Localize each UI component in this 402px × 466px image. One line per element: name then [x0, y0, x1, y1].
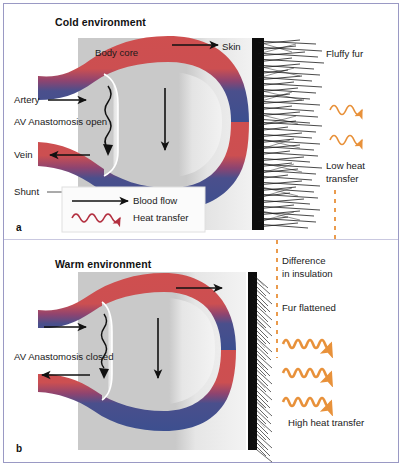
label-difference-line1: Difference [282, 255, 326, 267]
panel-a-title: Cold environment [55, 16, 146, 28]
heat-arrows-high [283, 340, 331, 406]
figure-root: Cold environment a Body core Skin Artery… [0, 0, 402, 466]
label-fluffy-fur: Fluffy fur [326, 48, 363, 60]
heat-arrow-2 [330, 136, 362, 145]
legend-label-blood-flow: Blood flow [133, 195, 177, 207]
panel-a-letter: a [16, 222, 22, 233]
label-fur-flattened: Fur flattened [282, 302, 336, 314]
legend-graphics [62, 187, 205, 232]
panel-b-title: Warm environment [55, 258, 151, 270]
label-low-heat-line2: transfer [326, 173, 359, 185]
fur-flattened [248, 272, 272, 462]
panel-b-letter: b [16, 443, 22, 454]
heat-arrow-high-1 [283, 340, 331, 348]
heat-arrow-high-2 [283, 369, 331, 377]
label-av-anastomosis-closed: AV Anastomosis closed [14, 351, 114, 363]
panel-cold-environment: Cold environment a Body core Skin Artery… [0, 0, 402, 240]
label-artery: Artery [14, 94, 40, 106]
label-av-anastomosis-open: AV Anastomosis open [14, 116, 107, 128]
label-low-heat-line1: Low heat [326, 160, 365, 172]
label-vein: Vein [14, 149, 33, 161]
label-body-core: Body core [95, 47, 138, 59]
label-high-heat-transfer: High heat transfer [288, 417, 364, 429]
heat-arrow-high-3 [283, 398, 331, 406]
heat-arrow-1 [330, 106, 362, 115]
label-difference-line2: in insulation [282, 268, 333, 280]
panel-warm-environment: Warm environment b AV Anastomosis closed… [0, 240, 402, 466]
legend-label-heat-transfer: Heat transfer [133, 212, 188, 224]
fur-fluffy [252, 38, 324, 230]
vessel-lumen-warm [106, 298, 215, 404]
label-shunt: Shunt [14, 186, 39, 198]
label-skin: Skin [222, 41, 241, 53]
heat-arrows-low [330, 106, 362, 145]
